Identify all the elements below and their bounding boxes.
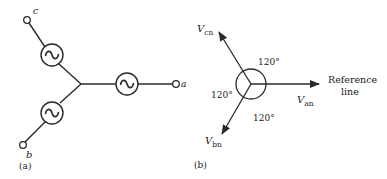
reference-label-line2: line	[341, 86, 359, 97]
angle-label-bottom: 120°	[253, 113, 275, 123]
terminal-a	[173, 81, 180, 88]
panel-b-caption: (b)	[194, 160, 207, 170]
wire-c-inner	[59, 64, 81, 84]
terminal-c	[24, 17, 31, 24]
panel-a-caption: (a)	[19, 161, 31, 171]
phasor-vcn-arrow	[219, 32, 251, 84]
angle-label-left: 120°	[211, 90, 233, 100]
vcn-sub: cn	[204, 28, 213, 37]
svg-text:Vbn: Vbn	[205, 135, 222, 149]
ac-source-a	[116, 73, 138, 95]
terminal-b-label: b	[26, 149, 32, 160]
angle-label-top: 120°	[258, 57, 280, 67]
phasor-vcn-label: Vcn	[197, 23, 213, 37]
terminal-c-label: c	[33, 6, 38, 16]
phasor-diagram-panel: Vcn Vbn Van 120° 120° 120° Reference lin…	[194, 23, 378, 170]
three-phase-diagram: c b a (a) Vcn Vbn Van	[0, 0, 387, 179]
reference-label-line1: Reference	[328, 74, 378, 85]
vbn-sub: bn	[212, 140, 222, 149]
van-sub: an	[304, 99, 313, 108]
terminal-a-label: a	[181, 79, 186, 89]
phasor-van-label: Van	[297, 94, 314, 108]
svg-text:Van: Van	[297, 94, 314, 108]
ac-source-c	[41, 44, 63, 66]
wire-c-outer	[29, 23, 45, 47]
ac-source-b	[41, 102, 63, 124]
wye-wires	[25, 23, 173, 142]
svg-text:Vcn: Vcn	[197, 23, 213, 37]
wire-b-outer	[25, 122, 45, 142]
terminal-b	[20, 142, 27, 149]
wire-b-inner	[60, 84, 81, 103]
wye-connection-panel: c b a (a)	[19, 6, 186, 171]
phasor-vbn-label: Vbn	[205, 135, 222, 149]
